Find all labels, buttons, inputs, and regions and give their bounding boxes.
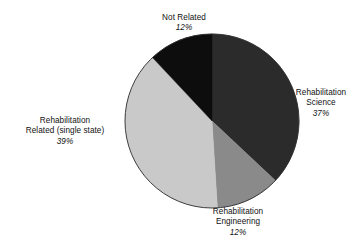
pie-slices	[125, 34, 299, 208]
pie-label-not-related: Not Related 12%	[136, 13, 232, 34]
pie-label-rehabilitation-related-value: 39%	[6, 137, 124, 147]
pie-label-rehabilitation-science-line1: Rehabilitation	[284, 88, 358, 98]
pie-label-rehabilitation-science: Rehabilitation Science 37%	[284, 88, 358, 119]
pie-label-not-related-text: Not Related	[136, 13, 232, 23]
pie-label-rehabilitation-engineering-line2: Engineering	[190, 217, 286, 227]
pie-label-rehabilitation-engineering: Rehabilitation Engineering 12%	[190, 207, 286, 238]
pie-label-rehabilitation-engineering-line1: Rehabilitation	[190, 207, 286, 217]
pie-chart: Not Related 12% Rehabilitation Science 3…	[0, 0, 360, 245]
pie-label-rehabilitation-engineering-value: 12%	[190, 228, 286, 238]
pie-label-rehabilitation-related: Rehabilitation Related (single state) 39…	[6, 116, 124, 147]
pie-label-rehabilitation-science-value: 37%	[284, 109, 358, 119]
pie-label-rehabilitation-related-line2: Related (single state)	[6, 126, 124, 136]
pie-label-rehabilitation-science-line2: Science	[284, 98, 358, 108]
pie-label-rehabilitation-related-line1: Rehabilitation	[6, 116, 124, 126]
pie-label-not-related-value: 12%	[136, 23, 232, 33]
